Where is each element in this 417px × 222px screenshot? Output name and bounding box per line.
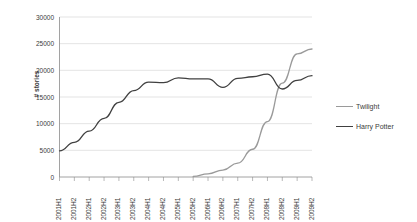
x-axis-tick-label: 2006H2: [218, 198, 225, 220]
chart-legend: TwilightHarry Potter: [336, 100, 417, 140]
legend-item[interactable]: Harry Potter: [336, 120, 417, 133]
x-axis-tick-labels: 2001H12001H22002H12002H22003H12003H22004…: [0, 178, 417, 222]
legend-color-swatch: [336, 126, 353, 127]
legend-color-swatch: [336, 106, 353, 107]
x-axis-tick-label: 2009H2: [308, 198, 315, 220]
series-lines: [60, 49, 313, 176]
x-axis-tick-label: 2003H1: [114, 198, 121, 220]
legend-item-label: Harry Potter: [356, 123, 394, 130]
line-chart: # stories 300002500020000150001000050000…: [0, 0, 417, 222]
x-axis-tick-label: 2001H2: [70, 198, 77, 220]
x-axis-tick-label: 2008H1: [263, 198, 270, 220]
x-axis-tick-label: 2006H1: [204, 198, 211, 220]
x-axis-tick-label: 2002H1: [85, 198, 92, 220]
x-axis-tick-label: 2007H1: [233, 198, 240, 220]
x-axis-tick-label: 2007H2: [248, 198, 255, 220]
gridlines: [60, 17, 313, 177]
x-axis-tick-label: 2009H1: [293, 198, 300, 220]
x-axis-tick-label: 2005H2: [189, 198, 196, 220]
x-axis-tick-label: 2005H1: [174, 198, 181, 220]
x-axis-tick-label: 2003H2: [129, 198, 136, 220]
x-axis-tick-label: 2008H2: [278, 198, 285, 220]
x-axis-tick-label: 2004H1: [144, 198, 151, 220]
legend-item-label: Twilight: [356, 103, 379, 110]
x-axis-tick-label: 2004H2: [159, 198, 166, 220]
legend-item[interactable]: Twilight: [336, 100, 417, 113]
x-axis-tick-label: 2002H2: [100, 198, 107, 220]
x-axis-tick-label: 2001H1: [55, 198, 62, 220]
series-line: [193, 49, 312, 176]
series-line: [60, 74, 313, 151]
